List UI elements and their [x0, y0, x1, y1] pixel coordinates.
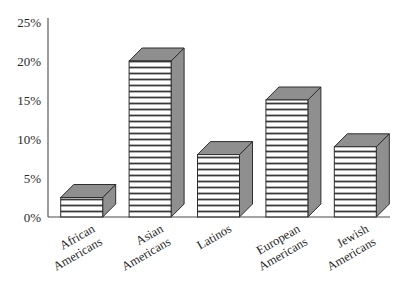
bar-front-face — [61, 198, 103, 218]
category-label-group: Latinos — [195, 221, 235, 252]
y-tick-label: 0% — [24, 210, 42, 225]
bar-front-face — [334, 147, 376, 217]
y-axis-tick-labels: 0%5%10%15%20%25% — [17, 15, 41, 225]
category-label-group: AsianAmericans — [112, 221, 174, 274]
bar-front-face — [266, 100, 308, 217]
y-tick-label: 25% — [17, 15, 41, 30]
x-axis-category-labels: AfricanAmericansAsianAmericansLatinosEur… — [43, 221, 379, 274]
bar-chart: 0%5%10%15%20%25% AfricanAmericansAsianAm… — [0, 0, 397, 291]
bar-front-face — [129, 61, 171, 217]
y-tick-label: 15% — [17, 93, 41, 108]
category-label-group: AfricanAmericans — [43, 221, 105, 274]
bar-side-face — [376, 134, 389, 217]
bar-side-face — [308, 87, 321, 217]
bar-4 — [334, 134, 389, 217]
y-tick-label: 10% — [17, 132, 41, 147]
bar-0 — [61, 185, 116, 218]
y-tick-label: 5% — [24, 171, 42, 186]
category-label-group: EuropeanAmericans — [248, 221, 310, 274]
bar-front-face — [198, 155, 240, 217]
category-label-group: JewishAmericans — [317, 221, 379, 274]
bar-3 — [266, 87, 321, 217]
bar-2 — [198, 142, 253, 217]
bar-series — [61, 48, 390, 217]
y-tick-label: 20% — [17, 54, 41, 69]
category-label-line: Latinos — [195, 221, 235, 252]
bar-side-face — [171, 48, 184, 217]
chart-canvas: 0%5%10%15%20%25% AfricanAmericansAsianAm… — [0, 0, 397, 291]
bar-1 — [129, 48, 184, 217]
